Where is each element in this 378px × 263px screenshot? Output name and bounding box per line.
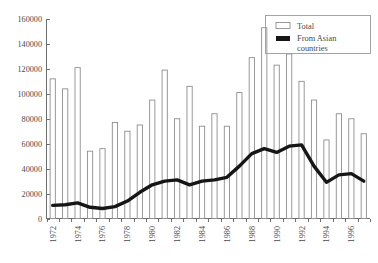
bar-1982 xyxy=(175,119,180,219)
y-tick-label: 100000 xyxy=(17,90,42,99)
bar-1983 xyxy=(187,86,192,218)
x-tick-label-1996: 1996 xyxy=(347,226,356,242)
bar-1990 xyxy=(274,65,279,218)
x-tick-label-1974: 1974 xyxy=(74,226,83,242)
x-tick-label-1984: 1984 xyxy=(198,226,207,242)
y-tick-label: 140000 xyxy=(17,40,42,49)
bar-1974 xyxy=(75,68,80,219)
bar-1993 xyxy=(311,100,316,218)
x-tick-label-1980: 1980 xyxy=(148,226,157,242)
y-tick-label: 20000 xyxy=(22,190,42,199)
x-tick-label-1978: 1978 xyxy=(123,226,132,242)
bar-1979 xyxy=(137,125,142,219)
legend-swatch-total xyxy=(276,23,290,29)
bar-1987 xyxy=(237,93,242,219)
x-tick-label-1982: 1982 xyxy=(173,226,182,242)
bar-1984 xyxy=(199,126,204,218)
bar-1978 xyxy=(125,131,130,218)
bar-1991 xyxy=(287,54,292,219)
x-tick-label-1972: 1972 xyxy=(49,226,58,242)
bar-1995 xyxy=(336,114,341,219)
bar-1986 xyxy=(224,126,229,218)
bar-1989 xyxy=(262,28,267,219)
legend-label-asian-line1: From Asian xyxy=(297,34,337,43)
bar-1972 xyxy=(50,79,55,219)
x-tick-label-1994: 1994 xyxy=(322,226,331,242)
chart-figure: 0200004000060000800001000001200001400001… xyxy=(0,0,378,263)
y-tick-label: 80000 xyxy=(22,115,42,124)
legend-label-total: Total xyxy=(297,22,315,31)
y-tick-label: 0 xyxy=(38,215,42,224)
y-tick-label: 40000 xyxy=(22,165,42,174)
bar-1997 xyxy=(361,134,366,219)
y-tick-label: 160000 xyxy=(17,15,42,24)
y-axis-tick-labels: 0200004000060000800001000001200001400001… xyxy=(17,15,42,224)
y-tick-label: 120000 xyxy=(17,65,42,74)
x-tick-label-1986: 1986 xyxy=(223,226,232,242)
bar-1996 xyxy=(349,119,354,219)
x-tick-label-1976: 1976 xyxy=(98,226,107,242)
x-tick-label-1990: 1990 xyxy=(273,226,282,242)
legend-label-asian-line2: countries xyxy=(297,44,328,53)
bar-1981 xyxy=(162,70,167,218)
y-tick-label: 60000 xyxy=(22,140,42,149)
x-tick-label-1988: 1988 xyxy=(248,226,257,242)
x-tick-label-1992: 1992 xyxy=(298,226,307,242)
immigration-bar-line-chart: 0200004000060000800001000001200001400001… xyxy=(0,0,378,263)
bar-1980 xyxy=(150,100,155,218)
bar-1973 xyxy=(63,89,68,219)
bar-1988 xyxy=(249,58,254,219)
bar-1985 xyxy=(212,114,217,219)
legend-swatch-asian xyxy=(276,36,290,41)
